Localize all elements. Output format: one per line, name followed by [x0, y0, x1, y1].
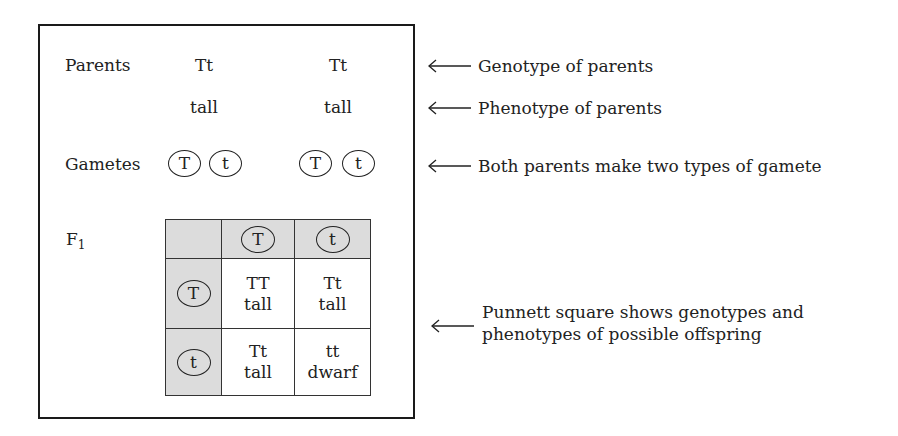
gamete-circle: T	[168, 150, 201, 177]
gametes-label: Gametes	[65, 154, 141, 174]
offspring-cell: TTtall	[222, 259, 295, 329]
offspring-cell: ttdwarf	[295, 329, 371, 396]
offspring-genotype: Tt	[295, 273, 370, 294]
gamete-allele: t	[355, 155, 362, 172]
annotation-punnett: Punnett square shows genotypes and pheno…	[482, 301, 804, 345]
f1-letter: F	[66, 229, 78, 249]
allele-circle: t	[177, 349, 211, 376]
left-arrow-icon	[428, 59, 472, 73]
allele-circle: T	[241, 226, 275, 253]
offspring-genotype: tt	[295, 341, 370, 362]
offspring-phenotype: tall	[222, 362, 294, 383]
offspring-phenotype: dwarf	[295, 362, 370, 383]
left-arrow-icon	[428, 101, 472, 115]
gamete-allele: T	[179, 155, 190, 172]
parent-2-phenotype: tall	[318, 97, 358, 117]
column-header: T	[222, 220, 295, 259]
annotation-phenotype: Phenotype of parents	[478, 97, 662, 119]
allele-circle: T	[177, 280, 211, 307]
offspring-cell: Tttall	[222, 329, 295, 396]
annotation-punnett-line-2: phenotypes of possible offspring	[482, 323, 804, 345]
gamete-allele: T	[310, 155, 321, 172]
f1-subscript: 1	[78, 238, 86, 252]
parent-2-genotype: Tt	[318, 55, 358, 75]
annotation-punnett-line-1: Punnett square shows genotypes and	[482, 301, 804, 323]
left-arrow-icon	[428, 159, 472, 173]
parent-1-phenotype: tall	[184, 97, 224, 117]
annotation-gametes: Both parents make two types of gamete	[478, 155, 822, 177]
gamete-allele: t	[222, 155, 229, 172]
row-header: T	[166, 259, 222, 329]
row-header: t	[166, 329, 222, 396]
column-header: t	[295, 220, 371, 259]
allele-circle: t	[316, 226, 350, 253]
left-arrow-icon	[431, 319, 475, 333]
offspring-phenotype: tall	[295, 294, 370, 315]
offspring-phenotype: tall	[222, 294, 294, 315]
punnett-square: T t T TTtall Tttall t Tttall ttdwarf	[165, 219, 371, 396]
gamete-circle: t	[342, 150, 375, 177]
offspring-genotype: TT	[222, 273, 294, 294]
parents-label: Parents	[65, 55, 131, 75]
f1-label: F1	[66, 229, 85, 255]
gamete-circle: t	[209, 150, 242, 177]
offspring-cell: Tttall	[295, 259, 371, 329]
gamete-circle: T	[299, 150, 332, 177]
corner-cell	[166, 220, 222, 259]
offspring-genotype: Tt	[222, 341, 294, 362]
annotation-genotype: Genotype of parents	[478, 55, 653, 77]
parent-1-genotype: Tt	[184, 55, 224, 75]
